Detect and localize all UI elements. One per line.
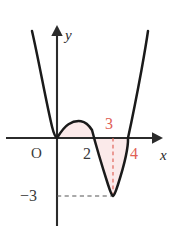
graph-canvas [0, 0, 177, 246]
y-tick-label-minus-3: −3 [20, 188, 37, 204]
x-axis-label: x [160, 148, 167, 163]
origin-label: O [31, 146, 42, 161]
y-axis-label: y [65, 28, 72, 43]
y-axis-arrowhead [51, 25, 62, 36]
function-curve [32, 31, 148, 196]
function-graph-figure: O 2 3 4 −3 x y [0, 0, 177, 246]
x-tick-label-2: 2 [83, 146, 91, 162]
x-tick-label-4: 4 [130, 146, 138, 162]
x-axis-arrowhead [152, 132, 163, 144]
x-tick-label-3: 3 [105, 116, 113, 132]
